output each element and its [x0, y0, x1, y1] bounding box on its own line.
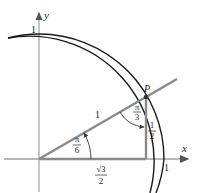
angle-arc-p — [120, 112, 144, 127]
y-axis-label: y — [43, 9, 49, 21]
angle-p-denominator: 3 — [135, 112, 140, 122]
x-axis-label: x — [181, 142, 187, 154]
unit-circle-arc-lower — [156, 159, 164, 193]
angle-arc-origin — [84, 133, 91, 159]
x-tick-label: 1 — [164, 162, 169, 173]
vertical-leg-numerator: 1 — [150, 120, 155, 130]
point-p-label: P — [143, 83, 150, 94]
unit-circle-arc — [8, 36, 154, 193]
angle-origin-numerator: π — [75, 134, 80, 144]
vertical-leg-denominator: 2 — [150, 131, 155, 141]
angle-origin-denominator: 6 — [75, 145, 80, 155]
point-p — [144, 95, 148, 99]
horizontal-leg-numerator: √3 — [97, 164, 106, 174]
hypotenuse-label: 1 — [95, 109, 100, 120]
hypotenuse-line — [39, 79, 177, 159]
unit-circle-diagram: y 1 x 1 P 1 π 6 π 3 1 2 √3 2 — [0, 0, 198, 193]
y-tick-label: 1 — [31, 24, 36, 35]
horizontal-leg-denominator: 2 — [99, 176, 104, 186]
angle-p-numerator: π — [135, 102, 140, 112]
